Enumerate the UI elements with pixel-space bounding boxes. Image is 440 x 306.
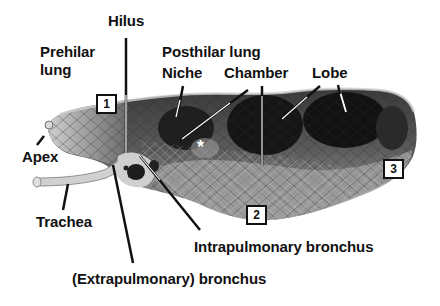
label-posthilar-lung: Posthilar lung [162, 43, 261, 60]
region-marker-3: 3 [383, 159, 404, 179]
label-hilus: Hilus [108, 12, 144, 29]
lung-diagram: Hilus Prehilar lung Posthilar lung Niche… [0, 0, 440, 306]
asterisk-marker: * [197, 139, 204, 156]
apex-pointer [37, 136, 44, 145]
label-intrapulmonary-bronchus: Intrapulmonary bronchus [194, 238, 373, 255]
label-prehilar-lung-line1: Prehilar [40, 43, 95, 60]
label-chamber: Chamber [224, 64, 288, 81]
label-niche: Niche [162, 64, 202, 81]
label-lobe: Lobe [312, 64, 347, 81]
trachea-pointer [63, 184, 68, 210]
label-prehilar-lung-line2: lung [40, 61, 71, 78]
region-marker-2: 2 [246, 205, 267, 225]
label-apex: Apex [22, 148, 58, 165]
label-extrapulmonary-bronchus: (Extrapulmonary) bronchus [72, 270, 266, 287]
region-marker-1: 1 [96, 94, 117, 114]
label-trachea: Trachea [36, 213, 92, 230]
